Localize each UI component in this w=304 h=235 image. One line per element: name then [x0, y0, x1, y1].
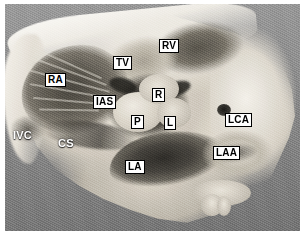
label-ias: IAS: [93, 95, 116, 109]
specimen-inferior-margin: [217, 196, 231, 216]
specimen-photograph: RA TV RV IAS R P L LCA LAA LA IVC CS: [5, 4, 300, 231]
label-p: P: [131, 115, 144, 129]
label-r: R: [152, 88, 165, 102]
label-ra: RA: [45, 73, 66, 87]
label-cs: CS: [58, 138, 74, 149]
label-rv: RV: [159, 39, 179, 53]
label-lca: LCA: [225, 113, 252, 127]
label-l: L: [164, 116, 176, 130]
label-tv: TV: [113, 56, 132, 70]
label-laa: LAA: [213, 146, 240, 160]
figure-root: RA TV RV IAS R P L LCA LAA LA IVC CS: [0, 0, 304, 235]
label-ivc: IVC: [13, 130, 32, 141]
label-la: LA: [125, 160, 145, 174]
